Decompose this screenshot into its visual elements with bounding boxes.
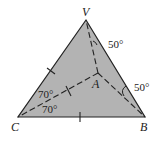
vertex-label-c: C [11,120,20,134]
angle-label-c-upper: 70° [38,88,53,100]
angle-label-c-lower: 70° [42,103,57,115]
vertex-label-a: A [91,77,100,91]
triangle-vcb [18,20,145,117]
angle-label-b: 50° [134,81,149,93]
angle-label-v: 50° [108,38,123,50]
vertex-label-v: V [82,5,91,19]
vertex-label-b: B [140,120,148,134]
geometry-diagram: V C B A 50° 50° 70° 70° [0,0,159,142]
